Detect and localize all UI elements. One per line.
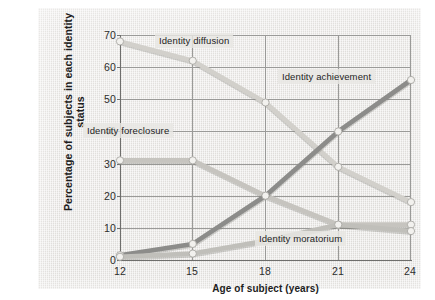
data-point	[262, 99, 269, 106]
data-point	[189, 240, 196, 247]
data-point	[335, 128, 342, 135]
chart-figure: 70 60 50 40 30 20 10 0 Percentage of sub…	[0, 0, 435, 300]
series-annotation-identity-achievement: Identity achievement	[278, 69, 375, 84]
series-identity-diffusion	[116, 38, 414, 206]
data-point	[335, 221, 342, 228]
data-point	[407, 199, 414, 206]
data-point	[407, 76, 414, 83]
data-point	[116, 253, 123, 260]
data-point	[189, 157, 196, 164]
data-point	[262, 192, 269, 199]
data-point	[189, 250, 196, 257]
series-annotation-identity-foreclosure: Identity foreclosure	[83, 123, 173, 138]
data-point	[116, 157, 123, 164]
data-point	[116, 38, 123, 45]
series-annotation-identity-moratorium: Identity moratorium	[255, 231, 346, 246]
data-point	[189, 57, 196, 64]
data-point	[335, 163, 342, 170]
series-annotation-identity-diffusion: Identity diffusion	[155, 33, 233, 48]
data-point	[407, 227, 414, 234]
